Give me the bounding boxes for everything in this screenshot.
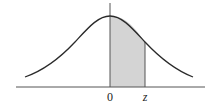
normal-curve-diagram: 0 z	[0, 0, 218, 109]
bell-curve	[25, 16, 193, 77]
shaded-area	[110, 16, 145, 87]
z-label: z	[142, 90, 148, 104]
origin-label: 0	[107, 90, 113, 104]
